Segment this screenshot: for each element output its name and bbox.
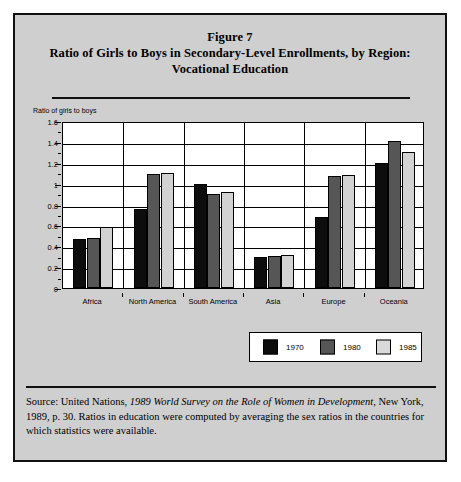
- y-axis-tick-mark: [55, 226, 61, 227]
- legend-swatch-1985: [376, 340, 391, 355]
- y-axis-minor-tick: [58, 195, 61, 196]
- legend-entry-1985: 1985: [376, 340, 417, 355]
- legend-label-1970: 1970: [286, 343, 304, 352]
- y-axis-tick-mark: [55, 185, 61, 186]
- category-separator: [184, 123, 185, 288]
- chart-legend: 197019801985: [249, 332, 422, 362]
- y-axis-tick-mark: [55, 122, 61, 123]
- category-separator: [365, 123, 366, 288]
- legend-swatch-1970: [263, 340, 278, 355]
- bar-south-america-1970: [194, 184, 207, 288]
- bar-africa-1970: [73, 239, 86, 288]
- y-axis-minor-tick: [58, 216, 61, 217]
- x-axis-tick-mark: [243, 293, 244, 297]
- y-axis-tick-mark: [55, 289, 61, 290]
- x-axis-tick-mark: [122, 293, 123, 297]
- bar-south-america-1985: [221, 192, 234, 288]
- bar-europe-1980: [328, 176, 341, 288]
- y-axis-minor-tick: [58, 132, 61, 133]
- figure-title-line-1: Figure 7: [15, 29, 445, 45]
- x-axis-label-europe: Europe: [321, 297, 345, 306]
- gridline: [63, 144, 423, 145]
- bar-europe-1970: [315, 217, 328, 288]
- y-axis-minor-tick: [58, 174, 61, 175]
- bar-south-america-1980: [207, 194, 220, 288]
- x-axis-label-africa: Africa: [83, 297, 102, 306]
- gridline: [63, 207, 423, 208]
- y-axis-tick-labels: 1.61.41.210.80.60.40.20: [28, 122, 58, 289]
- bar-africa-1980: [87, 238, 100, 288]
- bar-europe-1985: [342, 175, 355, 288]
- category-separator: [304, 123, 305, 288]
- y-axis-tick-mark: [55, 143, 61, 144]
- plot-area: [62, 122, 424, 289]
- figure-title: Figure 7 Ratio of Girls to Boys in Secon…: [15, 29, 445, 77]
- x-axis-tick-mark: [183, 293, 184, 297]
- bar-north-america-1985: [161, 173, 174, 288]
- bar-oceania-1980: [388, 141, 401, 288]
- legend-label-1980: 1980: [343, 343, 361, 352]
- bar-oceania-1970: [375, 163, 388, 288]
- y-axis-tick-mark: [55, 206, 61, 207]
- title-divider-rule: [52, 97, 410, 99]
- legend-label-1985: 1985: [399, 343, 417, 352]
- category-separator: [123, 123, 124, 288]
- source-italic-title: 1989 World Survey on the Role of Women i…: [130, 396, 376, 407]
- x-axis-category-labels: AfricaNorth AmericaSouth AmericaAsiaEuro…: [62, 293, 424, 307]
- source-prefix: Source: United Nations,: [26, 396, 130, 407]
- y-axis-minor-tick: [58, 279, 61, 280]
- legend-swatch-1980: [320, 340, 335, 355]
- y-axis-minor-tick: [58, 153, 61, 154]
- gridline: [63, 248, 423, 249]
- y-axis-minor-tick: [58, 258, 61, 259]
- x-axis-tick-mark: [303, 293, 304, 297]
- y-axis-tick-mark: [55, 247, 61, 248]
- gridline: [63, 165, 423, 166]
- x-axis-label-south-america: South America: [188, 297, 237, 306]
- x-axis-label-north-america: North America: [129, 297, 177, 306]
- y-axis-minor-tick: [58, 237, 61, 238]
- source-note: Source: United Nations, 1989 World Surve…: [26, 395, 438, 439]
- bar-asia-1985: [281, 255, 294, 288]
- gridline: [63, 186, 423, 187]
- gridline: [63, 269, 423, 270]
- gridline: [63, 227, 423, 228]
- bar-north-america-1980: [147, 174, 160, 288]
- figure-frame: Figure 7 Ratio of Girls to Boys in Secon…: [13, 13, 447, 462]
- bar-africa-1985: [100, 227, 113, 288]
- x-axis-tick-mark: [364, 293, 365, 297]
- legend-entry-1980: 1980: [320, 340, 361, 355]
- source-divider-rule: [26, 386, 436, 388]
- bar-asia-1980: [268, 256, 281, 288]
- y-axis-title: Ratio of girls to boys: [33, 107, 96, 114]
- bar-oceania-1985: [402, 152, 415, 288]
- figure-title-line-3: Vocational Education: [15, 61, 445, 77]
- legend-entry-1970: 1970: [263, 340, 304, 355]
- x-axis-label-asia: Asia: [266, 297, 281, 306]
- figure-title-line-2: Ratio of Girls to Boys in Secondary-Leve…: [15, 45, 445, 61]
- y-axis-tick-mark: [55, 164, 61, 165]
- bar-asia-1970: [254, 257, 267, 288]
- category-separator: [244, 123, 245, 288]
- bar-north-america-1970: [134, 209, 147, 288]
- y-axis-tick-mark: [55, 268, 61, 269]
- x-axis-label-oceania: Oceania: [380, 297, 408, 306]
- chart-region: Ratio of girls to boys 1.61.41.210.80.60…: [15, 105, 449, 330]
